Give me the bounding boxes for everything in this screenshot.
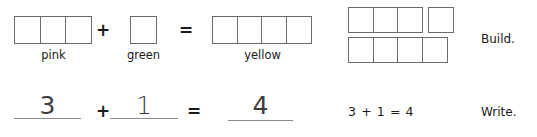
green-train-label: green	[117, 50, 170, 62]
pink-cube[interactable]	[40, 16, 67, 44]
model-square[interactable]	[373, 7, 399, 33]
answer-blank-sum[interactable]	[228, 120, 293, 121]
instruction-build: Build.	[481, 33, 515, 45]
yellow-cube[interactable]	[261, 16, 287, 44]
pink-train-label: pink	[14, 50, 93, 62]
handwritten-answer-sum: 4	[228, 93, 293, 118]
yellow-train-label: yellow	[212, 50, 313, 62]
model-square[interactable]	[348, 37, 374, 63]
model-bottom-group-four[interactable]	[348, 37, 448, 63]
yellow-cube[interactable]	[237, 16, 263, 44]
plus-operator-write: +	[95, 103, 111, 120]
worksheet: pink + green = yellow Build. 3 + 1	[0, 0, 537, 137]
model-square[interactable]	[373, 37, 399, 63]
green-cube-train[interactable]	[130, 16, 157, 44]
yellow-cube[interactable]	[212, 16, 238, 44]
model-square[interactable]	[397, 37, 423, 63]
green-cube[interactable]	[130, 16, 157, 44]
model-square[interactable]	[397, 7, 423, 33]
model-top-group-three[interactable]	[348, 7, 423, 33]
model-square[interactable]	[422, 37, 448, 63]
model-square[interactable]	[428, 7, 454, 33]
model-top-group-one[interactable]	[428, 7, 454, 33]
model-square[interactable]	[348, 7, 374, 33]
printed-number-sentence: 3 + 1 = 4	[348, 106, 414, 119]
handwritten-answer-b: 1	[110, 93, 178, 118]
yellow-cube-train[interactable]	[212, 16, 312, 44]
pink-cube-train[interactable]	[14, 16, 92, 44]
pink-cube[interactable]	[65, 16, 92, 44]
yellow-cube[interactable]	[286, 16, 312, 44]
handwritten-answer-a: 3	[14, 93, 81, 118]
instruction-write: Write.	[481, 106, 517, 118]
equals-operator-build: =	[178, 22, 194, 39]
pink-cube[interactable]	[14, 16, 41, 44]
equals-operator-write: =	[186, 103, 202, 120]
plus-operator-build: +	[95, 22, 111, 39]
